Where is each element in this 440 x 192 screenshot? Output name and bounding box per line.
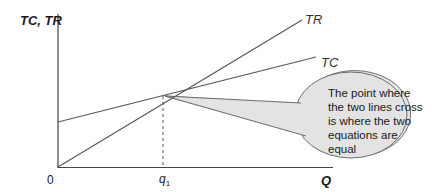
q1-label-sub: 1 [166, 179, 170, 188]
q1-label: q1 [159, 172, 170, 188]
q1-label-base: q [159, 172, 166, 186]
callout-line: is where the two [328, 114, 418, 128]
tr-line [58, 20, 302, 167]
x-axis-label: Q [321, 173, 331, 188]
tr-label: TR [305, 12, 322, 27]
callout-line: equations are [328, 128, 418, 142]
callout-line: The point where [328, 86, 418, 100]
tc-label: TC [321, 55, 338, 70]
origin-label: 0 [47, 173, 54, 187]
callout-line: the two lines cross [328, 100, 418, 114]
callout-line: equal [328, 142, 418, 156]
chart-stage: TC, TR Q 0 q1 TR TC The point where the … [0, 0, 440, 192]
y-axis-label: TC, TR [20, 13, 62, 28]
callout-text: The point where the two lines cross is w… [328, 86, 418, 156]
